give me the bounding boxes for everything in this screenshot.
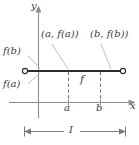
interval-label: I bbox=[69, 125, 73, 135]
interval-arrowhead-left-icon bbox=[24, 128, 31, 134]
point-a-label: (a, f(a)) bbox=[41, 29, 79, 39]
y-axis-label: y bbox=[31, 1, 37, 11]
x-axis-label: x bbox=[130, 101, 136, 111]
leader-line-point-a bbox=[52, 44, 68, 69]
leader-line-point-b bbox=[101, 44, 111, 69]
y-axis bbox=[36, 6, 42, 119]
constant-function-figure: y x (a, f(a)) (b, f(b)) f(b) f(a) f a b … bbox=[0, 0, 139, 145]
function-label: f bbox=[80, 74, 84, 85]
x-axis bbox=[9, 100, 136, 106]
open-endpoint-right-icon bbox=[120, 68, 125, 73]
open-endpoint-left-icon bbox=[22, 68, 27, 73]
leader-lines bbox=[28, 44, 111, 84]
value-fa-label: f(a) bbox=[3, 79, 20, 89]
x-tick-label-b: b bbox=[96, 103, 102, 113]
dashed-drop-lines bbox=[69, 72, 101, 102]
interval-bar bbox=[24, 124, 126, 139]
function-graph-segment bbox=[22, 68, 125, 73]
x-tick-label-a: a bbox=[64, 103, 70, 113]
value-fb-label: f(b) bbox=[3, 46, 21, 56]
point-b-label: (b, f(b)) bbox=[90, 29, 128, 39]
interval-arrowhead-right-icon bbox=[119, 128, 126, 134]
